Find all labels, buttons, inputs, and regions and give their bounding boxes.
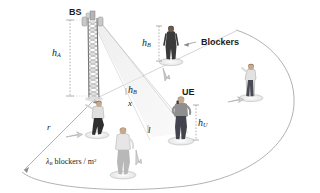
- h-a-subscript: A: [57, 51, 61, 58]
- blocker-center-body: [166, 31, 177, 60]
- density-text: blockers / m: [53, 157, 95, 166]
- radius-label: r: [47, 123, 51, 132]
- antenna-mast: [90, 11, 95, 20]
- motion-arrow-center: [163, 68, 170, 81]
- ue-phone: [177, 101, 179, 104]
- blocker-ll-torso: [92, 106, 104, 120]
- density-superscript: 2: [94, 158, 96, 163]
- blocker-bottom-disc: [110, 171, 136, 179]
- ue-label: UE: [182, 88, 195, 97]
- base-station-tower: [82, 11, 103, 102]
- motion-arrow-lower-left: [66, 132, 83, 138]
- antenna-panel-top: [86, 13, 90, 18]
- dimension-h-b: [156, 26, 162, 61]
- tower-base-shadow: [85, 96, 103, 101]
- h-b2-subscript: B: [133, 88, 137, 95]
- h-u-subscript: U: [203, 121, 207, 128]
- blocker-ll-disc: [85, 131, 109, 138]
- blockers-callout-arrow: [184, 42, 196, 47]
- blocker-density-label: λB blockers / m2: [46, 158, 97, 167]
- motion-arrow-bottom: [136, 150, 142, 165]
- h-b-subscript: B: [147, 41, 151, 48]
- x-distance-label: x: [128, 99, 132, 108]
- blocker-right-arm: [242, 68, 247, 72]
- antenna-panel-right: [98, 17, 103, 26]
- antenna-panel-left: [82, 17, 87, 26]
- dimension-h-a: [66, 20, 88, 96]
- blocker-bottom-torso: [116, 133, 131, 150]
- blocker-right: [228, 64, 263, 103]
- blocker-center-motion-arrow: [163, 68, 170, 81]
- ue-disc: [168, 137, 194, 145]
- h-b-label: hB: [142, 38, 151, 48]
- callout-arrowhead: [184, 43, 189, 47]
- h-b-dist-label: hB: [128, 85, 137, 95]
- blockers-label: Blockers: [201, 38, 239, 47]
- h-u-label: hU: [198, 118, 207, 128]
- ue-legs: [175, 116, 187, 139]
- blocker-center-disc: [159, 58, 183, 65]
- l-distance-label: l: [148, 126, 151, 135]
- bs-label: BS: [69, 8, 82, 17]
- blocker-bottom: [110, 127, 142, 179]
- blocker-lower-left: [66, 101, 109, 139]
- blocker-center: [159, 26, 183, 66]
- h-a-label: hA: [52, 48, 61, 58]
- ue-torso: [174, 102, 188, 117]
